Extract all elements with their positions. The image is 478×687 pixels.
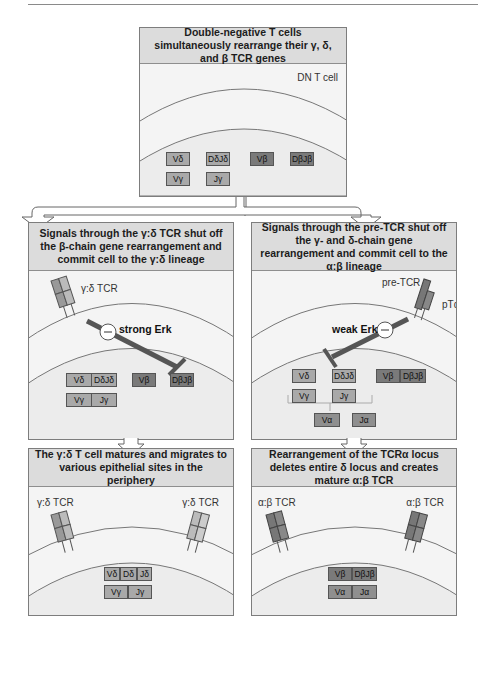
panel-dn-t-cell: Double-negative T cells simultaneously r… bbox=[139, 27, 347, 197]
receptor-label-right: α:β TCR bbox=[406, 497, 444, 508]
receptor-label: pre-TCR bbox=[382, 277, 420, 288]
gene-v-beta: Vβ bbox=[328, 567, 352, 581]
gene-dj-delta: DδJδ bbox=[332, 369, 356, 383]
cell-area: α:β TCR α:β TCR Vβ DβJβ Vα Jα bbox=[252, 487, 456, 616]
gene-j-gamma: Jγ bbox=[128, 585, 152, 599]
gene-v-gamma: Vγ bbox=[104, 585, 128, 599]
gene-v-beta: Vβ bbox=[250, 152, 274, 166]
cell-area: pre-TCR pTα weak Erk Vδ DδJδ Vβ DβJβ Vγ … bbox=[252, 271, 456, 440]
cell-area: γ:δ TCR strong Erk Vδ DδJδ Vβ DβJβ Vγ Jγ bbox=[29, 271, 233, 440]
gene-j-gamma: Jγ bbox=[332, 389, 356, 403]
panel-alpha-beta-mature: Rearrangement of the TCRα locus deletes … bbox=[251, 448, 457, 616]
panel-gamma-delta-mature: The γ:δ T cell matures and migrates to v… bbox=[28, 448, 234, 616]
gamma-delta-tcr-icon bbox=[51, 511, 77, 554]
receptor-label-left: α:β TCR bbox=[258, 497, 296, 508]
gene-dj-beta: DβJβ bbox=[400, 369, 426, 383]
panel-title: Double-negative T cells simultaneously r… bbox=[140, 28, 346, 64]
alpha-beta-tcr-icon bbox=[266, 511, 292, 554]
gene-j-gamma: Jγ bbox=[206, 172, 230, 186]
gene-v-delta: Vδ bbox=[66, 373, 92, 387]
gene-v-gamma: Vγ bbox=[66, 393, 92, 407]
cell-membranes bbox=[29, 271, 234, 440]
gene-v-alpha: Vα bbox=[314, 413, 340, 427]
gene-v-beta: Vβ bbox=[376, 369, 400, 383]
receptor-label: γ:δ TCR bbox=[81, 283, 118, 294]
receptor-label-left: γ:δ TCR bbox=[37, 497, 74, 508]
top-rule bbox=[28, 4, 478, 5]
cell-area: DN T cell Vδ DδJδ Vβ DβJβ Vγ Jγ bbox=[140, 64, 346, 196]
signal-label: strong Erk bbox=[119, 323, 172, 335]
cell-area: γ:δ TCR γ:δ TCR Vδ Dδ Jδ Vγ Jγ bbox=[29, 487, 233, 616]
panel-title: Signals through the γ:δ TCR shut off the… bbox=[29, 223, 233, 271]
gene-dj-delta: DδJδ bbox=[206, 152, 230, 166]
gene-j-alpha: Jα bbox=[352, 413, 376, 427]
receptor-label-right: γ:δ TCR bbox=[182, 497, 219, 508]
gene-v-delta: Vδ bbox=[104, 567, 120, 581]
receptor-sub-label: pTα bbox=[442, 299, 457, 310]
gene-dj-beta: DβJβ bbox=[290, 152, 314, 166]
gene-v-beta: Vβ bbox=[132, 373, 156, 387]
panel-title: The γ:δ T cell matures and migrates to v… bbox=[29, 449, 233, 487]
signal-label: weak Erk bbox=[332, 323, 378, 335]
panel-gamma-delta-commit: Signals through the γ:δ TCR shut off the… bbox=[28, 222, 234, 440]
cell-label: DN T cell bbox=[297, 72, 338, 83]
gene-dj-beta: DβJβ bbox=[170, 373, 194, 387]
gene-v-gamma: Vγ bbox=[292, 389, 316, 403]
alpha-beta-tcr-icon bbox=[402, 511, 428, 554]
gene-v-gamma: Vγ bbox=[166, 172, 190, 186]
panel-alpha-beta-commit: Signals through the pre-TCR shut off the… bbox=[251, 222, 457, 440]
gene-v-delta: Vδ bbox=[166, 152, 190, 166]
panel-title: Rearrangement of the TCRα locus deletes … bbox=[252, 449, 456, 487]
gene-v-alpha: Vα bbox=[328, 585, 352, 599]
gene-dj-beta: DβJβ bbox=[352, 567, 377, 581]
gene-j-alpha: Jα bbox=[352, 585, 377, 599]
panel-title: Signals through the pre-TCR shut off the… bbox=[252, 223, 456, 271]
gamma-delta-tcr-icon bbox=[184, 511, 210, 554]
gene-j-gamma: Jγ bbox=[91, 393, 117, 407]
gene-v-delta: Vδ bbox=[292, 369, 316, 383]
gamma-delta-tcr-icon bbox=[51, 276, 79, 319]
gene-dj-delta: DδJδ bbox=[91, 373, 117, 387]
gene-j-delta: Jδ bbox=[137, 567, 152, 581]
gene-d-delta: Dδ bbox=[120, 567, 137, 581]
